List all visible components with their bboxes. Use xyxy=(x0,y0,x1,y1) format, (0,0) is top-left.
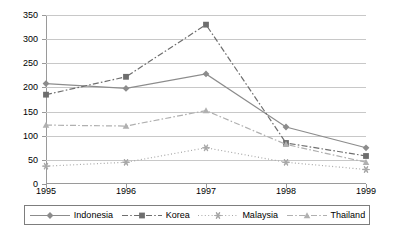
x-axis-label: 1998 xyxy=(263,187,309,196)
y-axis-label: 150 xyxy=(8,108,38,117)
legend-label: Thailand xyxy=(331,210,366,220)
diamond-marker xyxy=(203,71,210,78)
chart-legend: IndonesiaKoreaMalaysiaThailand xyxy=(24,205,370,225)
series-line xyxy=(46,111,366,163)
asterisk-marker xyxy=(362,166,369,172)
y-axis-label: 200 xyxy=(8,83,38,92)
series-korea xyxy=(43,22,369,159)
diamond-marker xyxy=(123,85,130,92)
asterisk-marker xyxy=(215,212,222,218)
diamond-marker xyxy=(283,124,290,131)
square-marker xyxy=(123,74,129,80)
square-marker xyxy=(139,212,145,218)
legend-swatch-diamond-icon xyxy=(29,210,71,221)
legend-swatch-square-icon xyxy=(121,210,163,221)
legend-item-korea[interactable]: Korea xyxy=(121,210,190,221)
y-axis-label: 100 xyxy=(8,132,38,141)
y-axis-label: 50 xyxy=(8,156,38,165)
plot-area xyxy=(46,15,366,184)
series-line xyxy=(46,25,366,156)
diamond-marker xyxy=(363,144,370,151)
x-axis-label: 1997 xyxy=(183,187,229,196)
x-axis-label: 1995 xyxy=(23,187,69,196)
x-axis-label: 1996 xyxy=(103,187,149,196)
diamond-marker xyxy=(46,212,53,219)
diamond-marker xyxy=(43,80,50,87)
y-axis-label: 250 xyxy=(8,59,38,68)
legend-item-indonesia[interactable]: Indonesia xyxy=(29,210,113,221)
asterisk-marker xyxy=(122,159,129,165)
asterisk-marker xyxy=(202,145,209,151)
legend-item-malaysia[interactable]: Malaysia xyxy=(197,210,278,221)
y-axis-label: 300 xyxy=(8,35,38,44)
asterisk-marker xyxy=(42,163,49,169)
legend-label: Korea xyxy=(166,210,190,220)
series-layer xyxy=(46,15,366,184)
asterisk-marker xyxy=(282,159,289,165)
y-axis-label: 350 xyxy=(8,11,38,20)
square-marker xyxy=(203,22,209,28)
line-chart: 050100150200250300350 199519961997199819… xyxy=(0,0,394,238)
legend-item-thailand[interactable]: Thailand xyxy=(286,210,366,221)
legend-label: Indonesia xyxy=(74,210,113,220)
square-marker xyxy=(43,92,49,98)
square-marker xyxy=(363,153,369,159)
legend-swatch-triangle-icon xyxy=(286,210,328,221)
legend-label: Malaysia xyxy=(242,210,278,220)
x-axis-label: 1999 xyxy=(343,187,389,196)
series-malaysia xyxy=(42,145,369,173)
triangle-marker xyxy=(203,107,210,113)
legend-swatch-asterisk-icon xyxy=(197,210,239,221)
